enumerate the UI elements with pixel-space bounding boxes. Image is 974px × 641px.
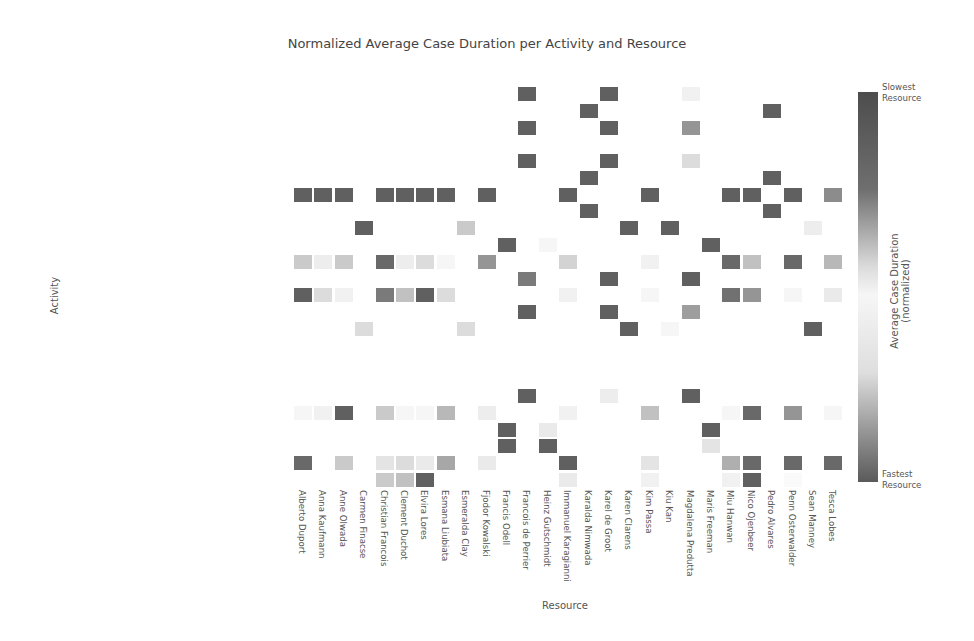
heatmap-cell	[559, 473, 577, 487]
heatmap-cell	[743, 473, 761, 487]
heatmap-cell	[437, 255, 455, 269]
heatmap-cell	[580, 171, 598, 185]
column-label: Alberto Duport	[297, 490, 307, 554]
heatmap-cell	[580, 104, 598, 118]
heatmap-cell	[314, 188, 332, 202]
heatmap-cell	[335, 406, 353, 420]
heatmap-cell	[396, 188, 414, 202]
heatmap-cell	[539, 439, 557, 453]
column-label: Carmen Finacse	[358, 490, 368, 558]
heatmap-cell	[784, 406, 802, 420]
heatmap-cell	[722, 456, 740, 470]
heatmap-cell	[396, 456, 414, 470]
heatmap-cell	[294, 188, 312, 202]
heatmap-cell	[682, 87, 700, 101]
heatmap-cell	[620, 322, 638, 336]
heatmap-cell	[416, 473, 434, 487]
colorbar-top-line2: Resource	[882, 93, 921, 104]
heatmap-cell	[355, 322, 373, 336]
heatmap-cell	[437, 188, 455, 202]
heatmap-cell	[539, 423, 557, 437]
column-label: Sean Manney	[807, 490, 817, 548]
heatmap-cell	[314, 288, 332, 302]
heatmap-cell	[661, 221, 679, 235]
column-label: Kiu Kan	[664, 490, 674, 522]
heatmap-cell	[396, 288, 414, 302]
column-label: Elvira Lores	[419, 490, 429, 540]
column-label: Heinz Gutschmidt	[542, 490, 552, 567]
heatmap-cell	[457, 221, 475, 235]
heatmap-cell	[641, 456, 659, 470]
heatmap-cell	[518, 389, 536, 403]
column-label: Karalda Nimwada	[583, 490, 593, 566]
heatmap-cell	[682, 121, 700, 135]
heatmap-cell	[641, 406, 659, 420]
colorbar-top-label: Slowest Resource	[882, 82, 921, 104]
heatmap-cell	[294, 255, 312, 269]
heatmap-cell	[478, 456, 496, 470]
heatmap-cell	[355, 221, 373, 235]
heatmap-cell	[722, 188, 740, 202]
heatmap-cell	[518, 272, 536, 286]
heatmap-cell	[661, 322, 679, 336]
heatmap-cell	[437, 456, 455, 470]
heatmap-cell	[784, 288, 802, 302]
heatmap-cell	[416, 255, 434, 269]
heatmap-cell	[518, 154, 536, 168]
column-label: Fjodor Kowalski	[481, 490, 491, 557]
heatmap-cell	[743, 188, 761, 202]
heatmap-cell	[620, 221, 638, 235]
column-label: Karel de Groot	[603, 490, 613, 552]
column-label: Esmeralda Clay	[460, 490, 470, 557]
heatmap-cell	[335, 456, 353, 470]
heatmap-cell	[580, 204, 598, 218]
heatmap-cell	[743, 255, 761, 269]
heatmap-cell	[498, 423, 516, 437]
column-label: Tesca Lobes	[827, 490, 837, 541]
column-label: Penn Osterwalder	[787, 490, 797, 566]
heatmap-cell	[743, 406, 761, 420]
heatmap-cell	[396, 406, 414, 420]
heatmap-cell	[722, 255, 740, 269]
heatmap-cell	[702, 238, 720, 252]
heatmap-cell	[722, 406, 740, 420]
colorbar	[858, 92, 878, 482]
colorbar-top-line1: Slowest	[882, 82, 921, 93]
column-label: Anne Olwada	[338, 490, 348, 547]
x-axis-label: Resource	[480, 600, 650, 611]
heatmap-cell	[682, 272, 700, 286]
heatmap-cell	[416, 406, 434, 420]
heatmap-cell	[784, 456, 802, 470]
heatmap-cell	[518, 87, 536, 101]
column-label: Pedro Alvares	[766, 490, 776, 549]
heatmap-cell	[294, 288, 312, 302]
heatmap-cell	[682, 305, 700, 319]
column-label: Maris Freeman	[705, 490, 715, 553]
heatmap-cell	[600, 389, 618, 403]
column-label: Karen Clarens	[623, 490, 633, 550]
heatmap-cell	[314, 406, 332, 420]
heatmap-cell	[784, 255, 802, 269]
column-label: Magdalena Predutta	[685, 490, 695, 577]
heatmap-cell	[376, 456, 394, 470]
heatmap-cell	[376, 188, 394, 202]
heatmap-cell	[376, 406, 394, 420]
heatmap-cell	[702, 423, 720, 437]
heatmap-cell	[559, 456, 577, 470]
heatmap-cell	[559, 406, 577, 420]
heatmap-cell	[559, 255, 577, 269]
heatmap-cell	[824, 406, 842, 420]
heatmap-cell	[743, 456, 761, 470]
colorbar-bottom-label: Fastest Resource	[882, 469, 921, 491]
heatmap-cell	[478, 188, 496, 202]
heatmap-cell	[294, 456, 312, 470]
heatmap-cell	[824, 255, 842, 269]
heatmap-cell	[702, 439, 720, 453]
heatmap-cell	[784, 188, 802, 202]
column-label: Clement Duchot	[399, 490, 409, 560]
colorbar-bottom-line1: Fastest	[882, 469, 921, 480]
column-label: Miu Hanwan	[725, 490, 735, 543]
column-label: Francois de Perrier	[521, 490, 531, 570]
heatmap-cell	[335, 188, 353, 202]
heatmap-cell	[824, 456, 842, 470]
